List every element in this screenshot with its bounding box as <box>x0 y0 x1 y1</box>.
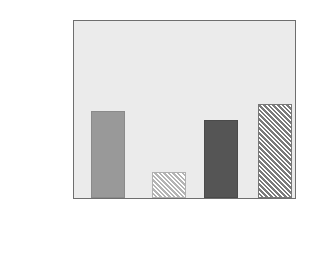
bar-healthy-sit <box>91 111 125 198</box>
bar-healthy-cs <box>152 172 186 198</box>
bars-container <box>74 21 295 198</box>
bar-lesioned-cs <box>258 104 292 198</box>
y-axis-title <box>8 14 60 25</box>
bar-lesioned-sit <box>204 120 238 198</box>
bar-chart <box>0 0 313 265</box>
